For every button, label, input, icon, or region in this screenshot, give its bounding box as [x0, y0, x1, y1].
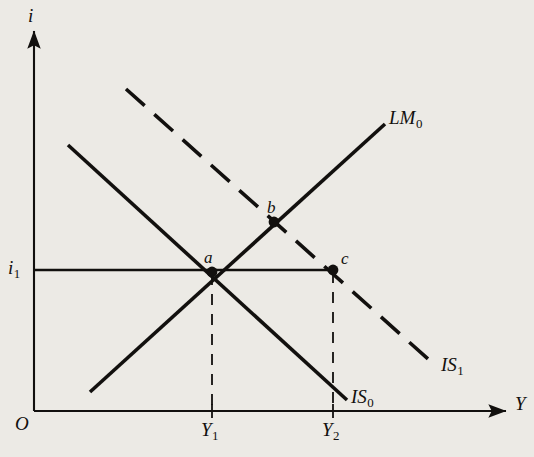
x-axis-label: Y [515, 394, 526, 413]
tick-label-i1-sub: 1 [13, 266, 20, 281]
point-label-c: c [341, 250, 349, 267]
is-lm-diagram: i Y O i1 Y1 Y2 LM0 IS0 IS1 a b c [0, 0, 534, 457]
point-b-marker [269, 217, 280, 228]
tick-label-y2-text: Y [322, 419, 333, 440]
curve-is1 [126, 89, 437, 367]
diagram-canvas [0, 0, 534, 457]
tick-label-y1-text: Y [201, 419, 212, 440]
curve-label-lm0: LM0 [389, 108, 422, 127]
curve-label-is1-sub: 1 [457, 363, 464, 378]
origin-label: O [15, 414, 29, 433]
tick-label-y1-sub: 1 [212, 428, 219, 443]
curve-label-is0-sub: 0 [367, 395, 374, 410]
curve-label-lm0-sub: 0 [415, 116, 422, 131]
tick-label-y2: Y2 [322, 420, 340, 439]
curve-label-lm0-text: LM [389, 107, 415, 128]
tick-label-i1: i1 [8, 258, 20, 277]
curve-label-is0-text: IS [351, 386, 367, 407]
curve-label-is1: IS1 [441, 355, 464, 374]
y-axis-label: i [28, 6, 33, 25]
point-label-b: b [267, 199, 276, 216]
point-a-marker [207, 267, 218, 278]
curve-label-is1-text: IS [441, 354, 457, 375]
tick-label-y1: Y1 [201, 420, 219, 439]
point-label-a: a [204, 249, 213, 266]
tick-label-y2-sub: 2 [333, 428, 340, 443]
curve-label-is0: IS0 [351, 387, 374, 406]
point-c-marker [328, 265, 339, 276]
